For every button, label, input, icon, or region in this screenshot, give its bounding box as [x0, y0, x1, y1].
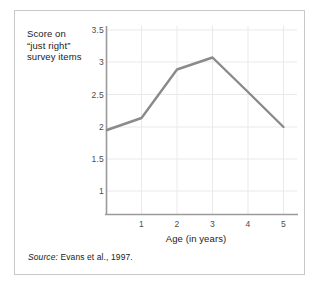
x-axis-title: Age (in years): [106, 233, 286, 245]
source-note-text: Evans et al., 1997.: [58, 252, 133, 262]
x-tick-label-1: 1: [132, 219, 152, 229]
x-tick-label-4: 4: [238, 219, 258, 229]
y-tick-label-2: 2: [78, 122, 104, 132]
figure-container: 3.5 3 2.5 2 1.5 1 1 2 3 4 5 Score on “ju…: [0, 0, 320, 286]
gridlines-vertical: [142, 26, 284, 214]
y-tick-label-1: 1: [78, 186, 104, 196]
source-note: Source: Evans et al., 1997.: [28, 252, 133, 262]
x-tick-label-3: 3: [203, 219, 223, 229]
x-tick-label-2: 2: [167, 219, 187, 229]
data-series-line: [107, 58, 284, 131]
source-note-label: Source:: [28, 252, 58, 262]
y-tick-label-1-5: 1.5: [78, 154, 104, 164]
y-axis-title: Score on “just right” survey items: [27, 28, 101, 63]
x-tick-label-5: 5: [274, 219, 294, 229]
y-tick-label-2-5: 2.5: [78, 90, 104, 100]
